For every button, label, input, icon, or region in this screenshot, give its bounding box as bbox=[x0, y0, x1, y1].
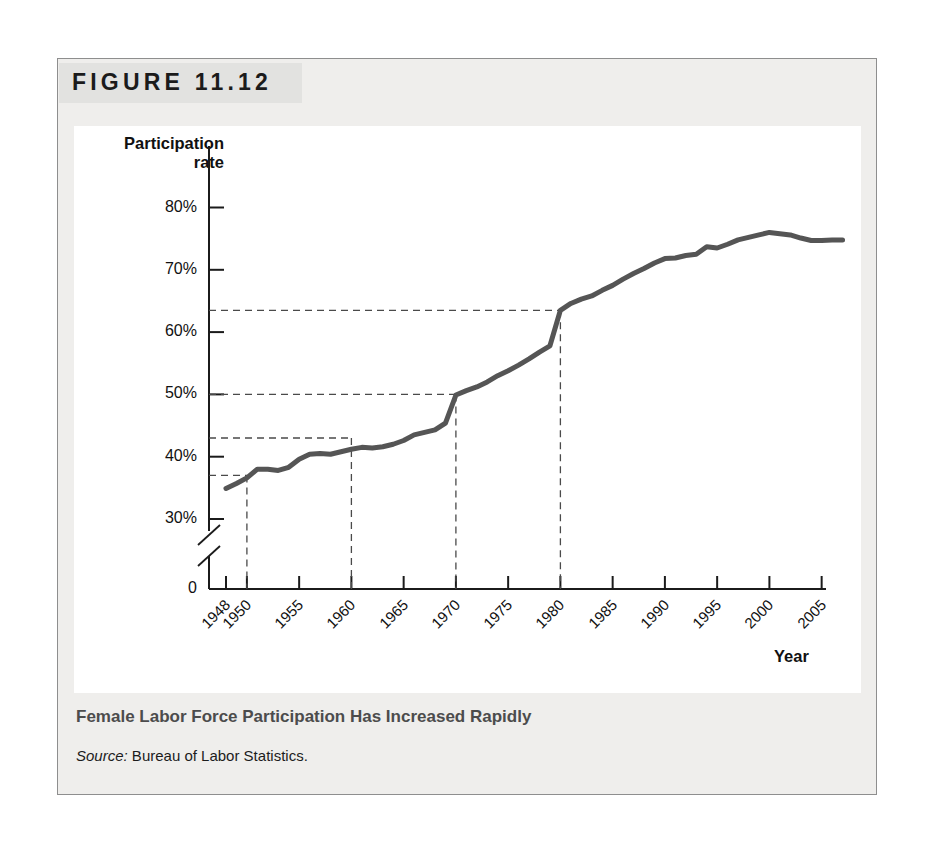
figure-source: Source: Bureau of Labor Statistics. bbox=[76, 747, 308, 764]
figure-caption: Female Labor Force Participation Has Inc… bbox=[76, 707, 531, 727]
x-axis-title: Year bbox=[774, 647, 809, 666]
source-label: Source: bbox=[76, 747, 128, 764]
figure-box: FIGURE 11.12 Participation rate 80%70%60… bbox=[57, 58, 877, 795]
y-tick-label: 70% bbox=[137, 260, 197, 278]
source-text: Bureau of Labor Statistics. bbox=[128, 747, 308, 764]
y-tick-label: 50% bbox=[137, 384, 197, 402]
chart-plot-panel: Participation rate 80%70%60%50%40%30%0 1… bbox=[74, 126, 861, 693]
y-tick-label: 30% bbox=[137, 509, 197, 527]
guide-lines-group bbox=[209, 310, 560, 589]
y-tick-label: 40% bbox=[137, 447, 197, 465]
y-tick-label: 0 bbox=[137, 579, 197, 597]
figure-number-label: FIGURE 11.12 bbox=[72, 69, 272, 96]
y-tick-label: 60% bbox=[137, 322, 197, 340]
data-line-group bbox=[226, 232, 843, 488]
y-tick-label: 80% bbox=[137, 198, 197, 216]
